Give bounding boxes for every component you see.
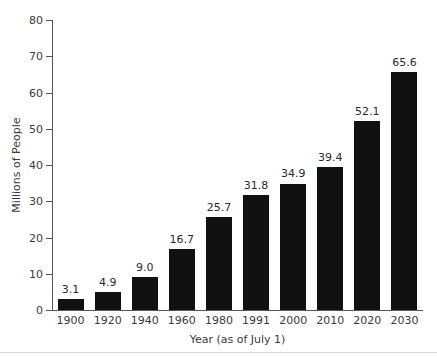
bar [391,72,417,310]
y-axis-tick-label: 70 [3,50,43,63]
bar [206,217,232,310]
bar-value-label: 39.4 [306,151,354,164]
y-axis-tick-label: 50 [3,122,43,135]
x-axis-title: Year (as of July 1) [52,333,423,346]
y-axis-tick-label: 30 [3,195,43,208]
x-axis-line [52,310,423,311]
x-axis-tick-label: 2030 [380,314,428,327]
bar-value-label: 25.7 [195,201,243,214]
bar [58,299,84,310]
bar [132,277,158,310]
y-axis-tick-label: 10 [3,267,43,280]
bar-value-label: 16.7 [158,233,206,246]
bar-value-label: 52.1 [343,105,391,118]
bar-value-label: 31.8 [232,179,280,192]
bar-chart: Millions of People 01020304050607080 3.1… [0,0,437,356]
bar-value-label: 34.9 [269,167,317,180]
bar [280,184,306,311]
bar-value-label: 4.9 [84,276,132,289]
bar-value-label: 9.0 [121,261,169,274]
y-axis-tick-label: 20 [3,231,43,244]
bar [317,167,343,310]
y-axis-tick-label: 80 [3,14,43,27]
bar [95,292,121,310]
bar [354,121,380,310]
bar [169,249,195,310]
y-axis-tick-label: 40 [3,159,43,172]
bar-value-label: 65.6 [380,56,428,69]
bar [243,195,269,310]
bottom-divider [0,352,437,353]
y-axis-tick-label: 0 [3,304,43,317]
y-axis-tick-label: 60 [3,86,43,99]
y-axis-line [52,20,53,311]
